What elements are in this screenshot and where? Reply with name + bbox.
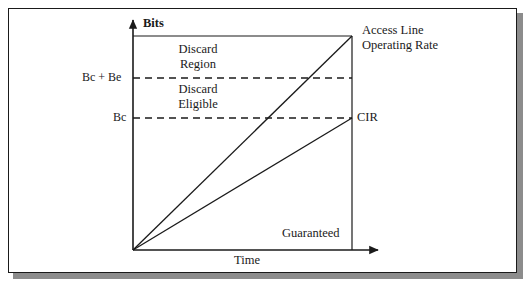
chart-canvas (0, 0, 526, 287)
y-tick-label-bc: Bc (113, 110, 126, 124)
region-label-discard-eligible: Discard Eligible (168, 82, 228, 112)
region-label-discard-region-line2: Region (168, 57, 228, 72)
region-label-discard-region: Discard Region (168, 42, 228, 72)
series-label-access-line-operating-rate-line1: Access Line (362, 23, 438, 38)
series-label-cir: CIR (357, 110, 378, 125)
figure-root: Bits Time Bc + Be Bc Discard Region Disc… (0, 0, 526, 287)
y-tick-label-bc-plus-be: Bc + Be (82, 70, 121, 84)
series-label-access-line-operating-rate: Access Line Operating Rate (362, 23, 438, 53)
x-axis-label: Time (234, 253, 260, 268)
y-axis-label: Bits (143, 16, 164, 31)
access-line-operating-rate-series (133, 36, 352, 250)
region-label-discard-eligible-line1: Discard (168, 82, 228, 97)
region-label-discard-eligible-line2: Eligible (168, 97, 228, 112)
series-label-access-line-operating-rate-line2: Operating Rate (362, 38, 438, 53)
region-label-guaranteed: Guaranteed (282, 226, 340, 241)
region-label-discard-region-line1: Discard (168, 42, 228, 57)
